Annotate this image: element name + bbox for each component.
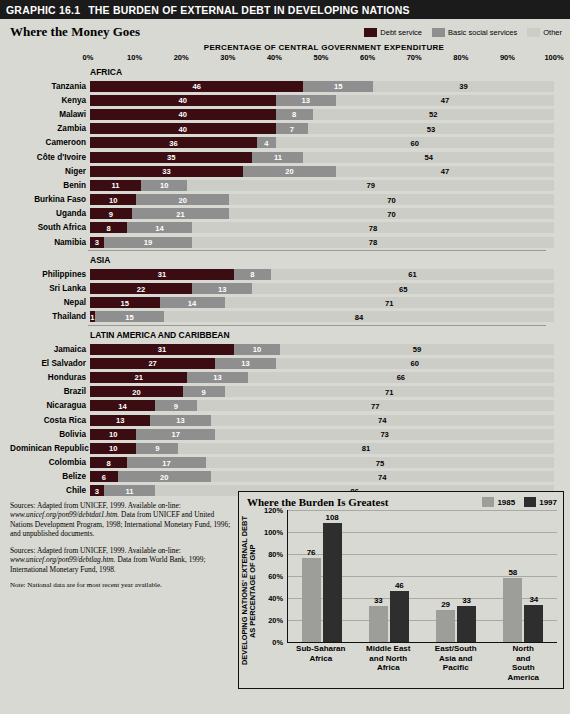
bar-value: 52 <box>429 110 437 119</box>
group-label: ASIA <box>90 255 110 265</box>
bar-value: 13 <box>241 359 249 368</box>
bar-value: 8 <box>292 110 296 119</box>
bar-value: 10 <box>253 345 261 354</box>
bar-segment-debt: 13 <box>90 415 150 426</box>
x-tick-3: 30% <box>220 53 235 62</box>
inset-x-label: North and South America <box>506 644 540 682</box>
group-label: LATIN AMERICA AND CARIBBEAN <box>90 330 230 340</box>
legend-item-other: Other <box>527 28 562 37</box>
stacked-bar: 81478 <box>90 222 554 233</box>
stacked-bar: 131374 <box>90 415 554 426</box>
bar-value: 35 <box>167 153 175 162</box>
bar-value: 17 <box>172 430 180 439</box>
stacked-bar: 221365 <box>90 283 554 294</box>
bar-value: 9 <box>109 209 113 218</box>
bar-value: 8 <box>250 270 254 279</box>
bar-value: 9 <box>155 444 159 453</box>
bar-segment-oth: 79 <box>187 180 554 191</box>
country-label: Côte d'Ivoire <box>10 153 90 162</box>
bar-segment-soc: 9 <box>183 386 225 397</box>
bar-segment-oth: 39 <box>373 81 554 92</box>
group-header-latin-america-and-caribbean: LATIN AMERICA AND CARIBBEAN <box>10 327 554 342</box>
stacked-bar: 40753 <box>90 123 554 134</box>
bar-segment-oth: 74 <box>211 415 554 426</box>
stacked-bar: 111079 <box>90 180 554 191</box>
bar-segment-oth: 53 <box>308 123 554 134</box>
bar-row: Bolivia101773 <box>10 427 554 441</box>
bar-segment-soc: 13 <box>215 358 275 369</box>
bar-row: Nicaragua14977 <box>10 399 554 413</box>
inset-bar-1985: 58 <box>503 578 522 642</box>
country-label: Belize <box>10 472 90 481</box>
bar-segment-soc: 17 <box>127 457 206 468</box>
graphic-title: THE BURDEN OF EXTERNAL DEBT IN DEVELOPIN… <box>88 4 410 16</box>
bar-segment-oth: 70 <box>229 208 554 219</box>
inset-x-label: Middle East and North Africa <box>366 644 410 673</box>
horizontal-bar-chart: 0%10%20%30%40%50%60%70%80%90%100% AFRICA… <box>10 53 562 498</box>
bar-segment-debt: 14 <box>90 400 155 411</box>
inset-y-axis-title: DEVELOPING NATIONS' EXTERNAL DEBT AS PER… <box>241 516 255 666</box>
bar-segment-oth: 47 <box>336 166 554 177</box>
bar-value: 71 <box>385 298 393 307</box>
bar-segment-soc: 15 <box>95 311 165 322</box>
source-1-pre: Sources: Adapted from UNICEF, 1999. Avai… <box>10 501 181 510</box>
stacked-bar: 20971 <box>90 386 554 397</box>
bar-row: Benin111079 <box>10 178 554 192</box>
country-label: Namibia <box>10 238 90 247</box>
country-label: Thailand <box>10 312 90 321</box>
bar-segment-soc: 13 <box>192 283 252 294</box>
x-tick-9: 90% <box>500 53 515 62</box>
bar-segment-debt: 46 <box>90 81 303 92</box>
bar-row: Niger332047 <box>10 164 554 178</box>
bar-segment-soc: 20 <box>243 166 336 177</box>
bar-value: 84 <box>355 312 363 321</box>
x-axis-ticks: 0%10%20%30%40%50%60%70%80%90%100% <box>88 53 554 64</box>
bar-value: 11 <box>125 486 133 495</box>
bar-segment-oth: 75 <box>206 457 554 468</box>
bar-value: 27 <box>148 359 156 368</box>
bar-segment-debt: 10 <box>90 443 136 454</box>
bar-value: 7 <box>290 124 294 133</box>
legend-label-basic-social-services: Basic social services <box>448 28 517 37</box>
bar-segment-debt: 31 <box>90 269 234 280</box>
bar-segment-soc: 20 <box>118 471 211 482</box>
bar-value: 20 <box>285 167 293 176</box>
stacked-bar: 332047 <box>90 166 554 177</box>
bar-segment-oth: 78 <box>192 222 554 233</box>
bar-segment-debt: 31 <box>90 344 234 355</box>
bar-segment-oth: 73 <box>215 429 554 440</box>
bar-rows: AFRICATanzania461539Kenya401347Malawi408… <box>10 64 554 498</box>
bar-value: 40 <box>179 124 187 133</box>
bar-row: Zambia40753 <box>10 122 554 136</box>
country-label: Uganda <box>10 209 90 218</box>
stacked-bar: 101773 <box>90 429 554 440</box>
legend-label-debt-service: Debt service <box>380 28 422 37</box>
source-2-url: www.unicef.org/pon99/debtlag.htm. <box>10 555 116 564</box>
inset-header: Where the Burden Is Greatest 1985 1997 <box>239 492 563 510</box>
inset-plot: DEVELOPING NATIONS' EXTERNAL DEBT AS PER… <box>239 510 563 670</box>
bar-row: Malawi40852 <box>10 107 554 121</box>
bar-segment-soc: 11 <box>104 485 155 496</box>
stacked-bar: 81775 <box>90 457 554 468</box>
bar-segment-debt: 10 <box>90 194 136 205</box>
bar-segment-oth: 78 <box>192 237 554 248</box>
bar-value: 17 <box>162 458 170 467</box>
bar-segment-oth: 54 <box>303 152 554 163</box>
bar-value: 14 <box>188 298 196 307</box>
bar-segment-debt: 40 <box>90 109 276 120</box>
country-label: Bolivia <box>10 430 90 439</box>
bar-value: 61 <box>408 270 416 279</box>
inset-bar-1997: 108 <box>323 523 342 642</box>
bar-value: 20 <box>132 387 140 396</box>
inset-y-tick-2: 40% <box>268 594 283 603</box>
bar-segment-soc: 13 <box>276 95 336 106</box>
x-tick-2: 20% <box>174 53 189 62</box>
country-label: Chile <box>10 486 90 495</box>
sources-block: Sources: Adapted from UNICEF, 1999. Avai… <box>0 498 246 574</box>
bar-value: 60 <box>411 359 419 368</box>
bar-value: 46 <box>192 82 200 91</box>
stacked-bar: 461539 <box>90 81 554 92</box>
inset-bar-value: 76 <box>307 548 316 557</box>
inset-y-tick-3: 60% <box>268 572 283 581</box>
bar-segment-soc: 13 <box>150 415 210 426</box>
